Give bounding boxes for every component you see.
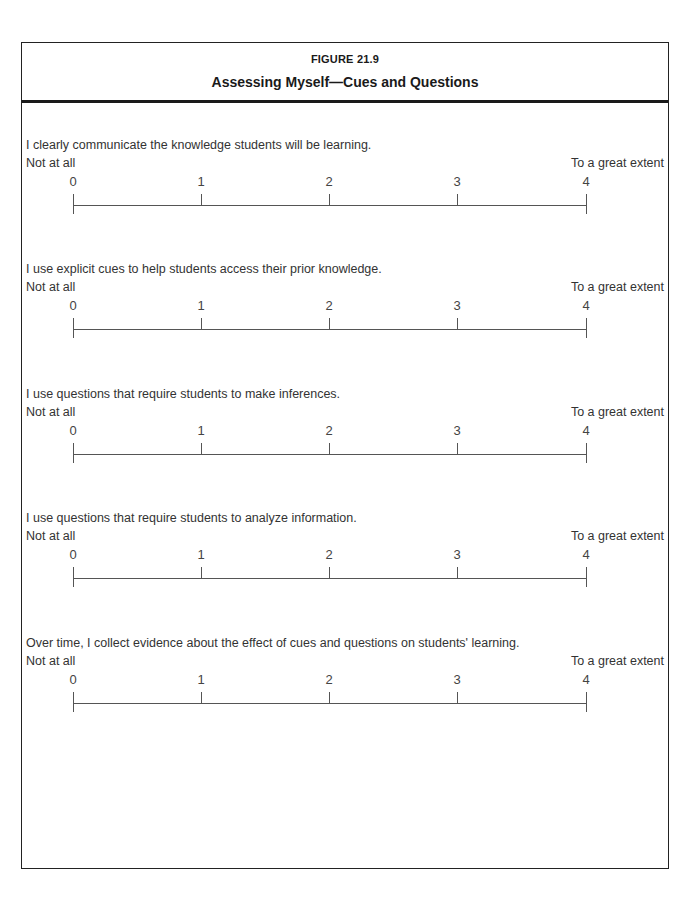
item-statement: I use questions that require students to… (26, 511, 357, 525)
scale-tick (586, 692, 587, 712)
scale-tick (586, 567, 587, 587)
scale-point-4[interactable]: 4 (576, 547, 596, 562)
scale-point-1[interactable]: 1 (191, 298, 211, 313)
scale-point-1[interactable]: 1 (191, 423, 211, 438)
scale-point-0[interactable]: 0 (63, 298, 83, 313)
scale-line[interactable] (73, 205, 586, 206)
scale-low-anchor: Not at all (26, 156, 75, 170)
figure-header: FIGURE 21.9 Assessing Myself—Cues and Qu… (22, 43, 668, 103)
scale-high-anchor: To a great extent (571, 156, 664, 170)
item-statement: Over time, I collect evidence about the … (26, 636, 519, 650)
figure-label: FIGURE 21.9 (22, 43, 668, 65)
rating-item: I use questions that require students to… (22, 511, 668, 641)
scale-low-anchor: Not at all (26, 405, 75, 419)
rating-item: I use questions that require students to… (22, 387, 668, 517)
scale-point-4[interactable]: 4 (576, 672, 596, 687)
scale-point-4[interactable]: 4 (576, 423, 596, 438)
item-statement: I clearly communicate the knowledge stud… (26, 138, 371, 152)
figure-box: FIGURE 21.9 Assessing Myself—Cues and Qu… (21, 42, 669, 869)
scale-point-2[interactable]: 2 (319, 423, 339, 438)
scale-high-anchor: To a great extent (571, 405, 664, 419)
item-statement: I use questions that require students to… (26, 387, 340, 401)
scale-point-3[interactable]: 3 (447, 423, 467, 438)
scale-low-anchor: Not at all (26, 654, 75, 668)
scale-point-0[interactable]: 0 (63, 423, 83, 438)
scale-point-2[interactable]: 2 (319, 672, 339, 687)
scale-tick (73, 194, 74, 214)
scale-point-3[interactable]: 3 (447, 547, 467, 562)
rating-item: Over time, I collect evidence about the … (22, 636, 668, 766)
scale-point-1[interactable]: 1 (191, 672, 211, 687)
scale-high-anchor: To a great extent (571, 280, 664, 294)
scale-line[interactable] (73, 578, 586, 579)
scale-tick (73, 567, 74, 587)
scale-low-anchor: Not at all (26, 529, 75, 543)
scale-point-3[interactable]: 3 (447, 672, 467, 687)
scale-high-anchor: To a great extent (571, 654, 664, 668)
scale-tick (586, 443, 587, 463)
scale-line[interactable] (73, 703, 586, 704)
scale-tick (586, 318, 587, 338)
scale-low-anchor: Not at all (26, 280, 75, 294)
scale-tick (73, 318, 74, 338)
scale-tick (73, 443, 74, 463)
scale-point-4[interactable]: 4 (576, 174, 596, 189)
scale-point-0[interactable]: 0 (63, 547, 83, 562)
scale-point-3[interactable]: 3 (447, 298, 467, 313)
scale-point-1[interactable]: 1 (191, 547, 211, 562)
scale-tick (73, 692, 74, 712)
scale-tick (586, 194, 587, 214)
scale-line[interactable] (73, 329, 586, 330)
scale-point-0[interactable]: 0 (63, 672, 83, 687)
scale-high-anchor: To a great extent (571, 529, 664, 543)
item-statement: I use explicit cues to help students acc… (26, 262, 382, 276)
scale-point-1[interactable]: 1 (191, 174, 211, 189)
scale-point-2[interactable]: 2 (319, 174, 339, 189)
rating-item: I use explicit cues to help students acc… (22, 262, 668, 392)
scale-point-3[interactable]: 3 (447, 174, 467, 189)
scale-point-4[interactable]: 4 (576, 298, 596, 313)
scale-line[interactable] (73, 454, 586, 455)
scale-point-2[interactable]: 2 (319, 547, 339, 562)
scale-point-2[interactable]: 2 (319, 298, 339, 313)
rating-item: I clearly communicate the knowledge stud… (22, 138, 668, 268)
scale-point-0[interactable]: 0 (63, 174, 83, 189)
figure-title: Assessing Myself—Cues and Questions (22, 74, 668, 90)
